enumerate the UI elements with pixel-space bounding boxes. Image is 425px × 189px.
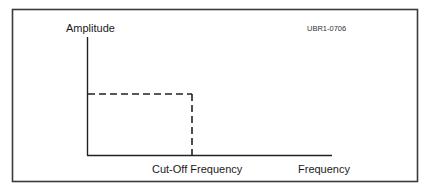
diagram-svg [0, 0, 425, 189]
x-axis-label: Frequency [298, 164, 350, 175]
diagram-canvas: Amplitude UBR1-0706 Cut-Off Frequency Fr… [0, 0, 425, 189]
y-axis-label: Amplitude [66, 23, 115, 34]
cutoff-frequency-label: Cut-Off Frequency [152, 164, 242, 175]
figure-id-label: UBR1-0706 [307, 25, 346, 33]
